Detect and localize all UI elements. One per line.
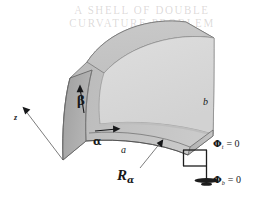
phi-t-relation: = 0 [226, 138, 239, 149]
z-axis-label: z [14, 114, 17, 122]
alpha-axis-label: α [93, 136, 101, 147]
boundary-condition-phi-b-label: Φb= 0 [213, 175, 241, 186]
radius-subscript: α [127, 174, 134, 185]
beta-axis-label: β [77, 95, 85, 107]
shell-panel-figure: A SHELL OF DOUBLE CURVATURE PROBLEM [0, 0, 261, 199]
dimension-b-label: b [203, 97, 208, 107]
z-axis-arrow [23, 107, 64, 160]
phi-b-subscript: b [222, 179, 225, 186]
radius-symbol: R [117, 167, 127, 183]
boundary-condition-phi-t-label: Φt= 0 [213, 139, 240, 150]
phi-b-relation: = 0 [228, 174, 241, 185]
phi-b-symbol: Φ [213, 174, 222, 185]
phi-t-subscript: t [222, 143, 224, 150]
dimension-a-label: a [121, 145, 126, 155]
phi-t-symbol: Φ [213, 138, 222, 149]
radius-alpha-label: Rα [117, 168, 134, 184]
